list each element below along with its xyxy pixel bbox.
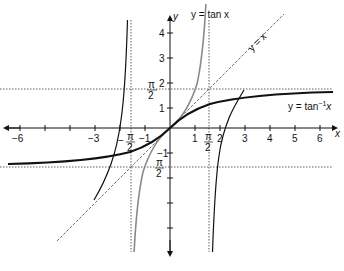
x-label-pi-over-2-num: π <box>205 131 212 142</box>
y-tick-label-1: 1 <box>159 103 165 114</box>
curve-tan-left-branch <box>94 20 128 200</box>
axes <box>6 18 335 254</box>
asymptotes <box>0 20 333 252</box>
x-tick-label-4: 4 <box>267 133 273 144</box>
x-label-neg-pi-over-2-num: π <box>127 131 134 142</box>
x-label-pi-over-2-den: 2 <box>205 142 211 153</box>
tick-labels: −6 −3 −1 1 2 3 4 5 6 1 2 3 4 −1 π 2 − π … <box>12 28 323 179</box>
x-tick-label-6: 6 <box>317 133 323 144</box>
y-label-neg-pi-over-2-num: π <box>156 157 163 168</box>
curve-labels: y x y = tan x y = x y = tan−1x <box>172 9 341 139</box>
x-axis-label: x <box>334 128 341 139</box>
y-label-neg-pi-over-2-den: 2 <box>156 168 162 179</box>
x-label-neg-pi-over-2-den: 2 <box>127 142 133 153</box>
label-tan: y = tan x <box>191 9 229 20</box>
x-tick-label-neg6: −6 <box>12 133 24 144</box>
label-arctan: y = tan−1x <box>288 100 332 112</box>
x-tick-label-3: 3 <box>242 133 248 144</box>
x-label-neg-pi-over-2-minus: − <box>118 135 124 146</box>
x-tick-label-1: 1 <box>192 133 198 144</box>
y-axis-label: y <box>172 11 179 22</box>
y-tick-label-2: 2 <box>159 78 165 89</box>
x-tick-label-neg3: −3 <box>88 133 100 144</box>
x-tick-label-5: 5 <box>292 133 298 144</box>
x-tick-label-2: 2 <box>217 133 223 144</box>
y-label-pi-over-2-num: π <box>148 79 155 90</box>
y-tick-label-3: 3 <box>159 53 165 64</box>
curve-tan-right-branch <box>213 90 245 252</box>
y-label-pi-over-2-den: 2 <box>148 90 154 101</box>
y-tick-label-4: 4 <box>159 28 165 39</box>
label-y-equals-x: y = x <box>246 30 269 53</box>
tan-arctan-chart: −6 −3 −1 1 2 3 4 5 6 1 2 3 4 −1 π 2 − π … <box>0 0 344 271</box>
x-tick-label-neg1: −1 <box>139 133 151 144</box>
